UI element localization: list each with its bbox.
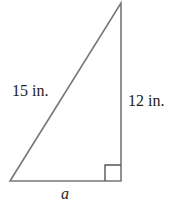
vertical-leg-label: 12 in.: [128, 92, 164, 109]
triangle-diagram: 15 in. 12 in. a: [0, 0, 189, 215]
right-angle-marker: [105, 165, 121, 181]
hypotenuse-label: 15 in.: [12, 82, 48, 99]
horizontal-leg-label: a: [61, 185, 69, 202]
